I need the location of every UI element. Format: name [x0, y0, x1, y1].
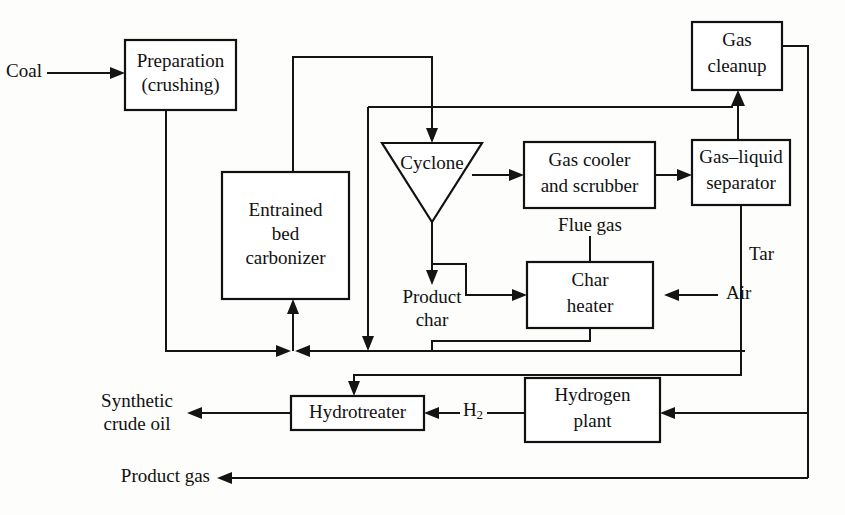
- stream-label-tar: Tar: [749, 243, 775, 264]
- arrowhead-gas-cooler-to-separator: [677, 169, 692, 181]
- preparation-label-line1: Preparation: [137, 50, 225, 71]
- gas-cleanup-label-line2: cleanup: [707, 55, 766, 76]
- hydrogen-plant-label-line1: Hydrogen: [555, 384, 631, 405]
- unit-gas-liquid-separator[interactable]: Gas–liquid separator: [692, 140, 790, 205]
- arrowhead-air-to-char-heater: [664, 289, 679, 301]
- hydrotreater-label: Hydrotreater: [309, 401, 407, 422]
- arrowhead-char-to-char-heater: [512, 289, 527, 301]
- arrowhead-riser-to-product-gas: [217, 472, 232, 484]
- flow-diagram-canvas: Preparation (crushing) Entrained bed car…: [0, 0, 845, 515]
- unit-char-heater[interactable]: Char heater: [527, 262, 653, 328]
- hydrogen-plant-label-line2: plant: [574, 410, 613, 431]
- process-flow-diagram: Preparation (crushing) Entrained bed car…: [0, 0, 845, 515]
- unit-preparation[interactable]: Preparation (crushing): [125, 40, 236, 110]
- stream-label-product-char-line2: char: [416, 309, 449, 330]
- arrowhead-cyclone-to-gas-cooler: [509, 169, 524, 181]
- stream-label-synthetic-crude-line2: crude oil: [103, 413, 170, 434]
- stream-label-product-gas: Product gas: [121, 465, 210, 486]
- unit-gas-cooler-and-scrubber[interactable]: Gas cooler and scrubber: [524, 142, 655, 208]
- arrowhead-bypass-down-to-header: [362, 336, 374, 351]
- arrowhead-junction-to-carbonizer: [287, 299, 299, 314]
- unit-entrained-bed-carbonizer[interactable]: Entrained bed carbonizer: [222, 172, 349, 299]
- stream-label-synthetic-crude-line1: Synthetic: [101, 390, 173, 411]
- arrowhead-into-cyclone: [426, 128, 438, 143]
- stream-label-air: Air: [726, 282, 752, 303]
- stream-label-product-char-line1: Product: [402, 286, 462, 307]
- gas-cleanup-label-line1: Gas: [722, 29, 752, 50]
- hydrogen-subscript: 2: [477, 407, 484, 422]
- arrowhead-tar-to-hydrotreater: [348, 381, 360, 396]
- hydrogen-symbol: H: [463, 399, 477, 420]
- arrowhead-cyclone-to-product-char: [426, 270, 438, 285]
- unit-hydrogen-plant[interactable]: Hydrogen plant: [525, 378, 660, 442]
- stream-label-hydrogen: H2: [463, 399, 483, 422]
- unit-cyclone[interactable]: Cyclone: [382, 143, 482, 222]
- stream-label-coal: Coal: [6, 60, 42, 81]
- arrowhead-coal-to-preparation: [110, 67, 125, 79]
- carbonizer-label-line3: carbonizer: [245, 247, 326, 268]
- preparation-label-line2: (crushing): [141, 74, 219, 96]
- arrowhead-recycle-junction-left: [295, 345, 310, 357]
- separator-label-line2: separator: [706, 172, 776, 193]
- arrowhead-hydrotreater-to-synthetic-crude: [187, 407, 202, 419]
- char-heater-label-line2: heater: [567, 295, 614, 316]
- gas-cooler-label-line2: and scrubber: [541, 175, 639, 196]
- arrowhead-h2-to-hydrotreater: [424, 407, 439, 419]
- gas-cooler-label-line1: Gas cooler: [549, 149, 631, 170]
- arrowhead-separator-to-gas-cleanup: [731, 90, 745, 106]
- unit-gas-cleanup[interactable]: Gas cleanup: [692, 22, 782, 90]
- arrowhead-riser-to-hydrogen-plant: [660, 407, 675, 419]
- cyclone-label: Cyclone: [400, 152, 463, 173]
- unit-hydrotreater[interactable]: Hydrotreater: [291, 396, 424, 430]
- stream-label-flue-gas: Flue gas: [558, 214, 622, 235]
- separator-label-line1: Gas–liquid: [699, 146, 783, 167]
- char-heater-label-line1: Char: [572, 269, 610, 290]
- arrowhead-preparation-junction-right: [276, 345, 291, 357]
- carbonizer-label-line2: bed: [272, 223, 300, 244]
- line-char-heater-recycle: [432, 328, 590, 351]
- carbonizer-label-line1: Entrained: [249, 199, 323, 220]
